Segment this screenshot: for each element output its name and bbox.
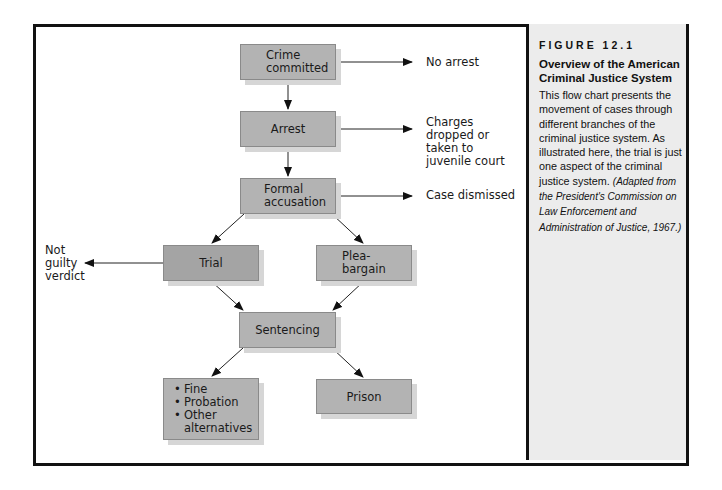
exit-case-dismissed: Case dismissed [426, 189, 515, 202]
node-prison: Prison [316, 379, 412, 414]
node-arrest-label: Arrest [241, 123, 335, 136]
node-crime-committed: Crime committed [240, 44, 336, 80]
node-formal-accusation: Formal accusation [240, 178, 336, 214]
node-alternatives: Fine Probation Other alternatives [163, 378, 259, 440]
node-prison-label: Prison [317, 390, 411, 403]
node-arrest: Arrest [240, 111, 336, 147]
node-crime-label: Crime committed [241, 49, 335, 75]
node-sentencing-label: Sentencing [240, 324, 335, 337]
node-plea-label: Plea-bargain [317, 250, 411, 276]
node-accusation-label: Formal accusation [241, 183, 335, 209]
node-sentencing: Sentencing [239, 312, 336, 348]
figure-title: Overview of the American Criminal Justic… [539, 57, 684, 85]
figure-caption: This flow chart presents the movement of… [539, 88, 687, 235]
node-trial-label: Trial [164, 257, 258, 270]
figure-number: FIGURE 12.1 [539, 39, 635, 51]
exit-not-guilty: Not guilty verdict [45, 244, 83, 283]
exit-charges-dropped: Charges dropped or taken to juvenile cou… [426, 116, 518, 168]
exit-no-arrest: No arrest [426, 56, 479, 69]
node-trial: Trial [163, 245, 259, 281]
alternative-item: Other alternatives [184, 409, 246, 435]
node-plea-bargain: Plea-bargain [316, 245, 412, 281]
caption-text: This flow chart presents the movement of… [539, 89, 682, 187]
alternatives-list: Fine Probation Other alternatives [164, 383, 258, 435]
